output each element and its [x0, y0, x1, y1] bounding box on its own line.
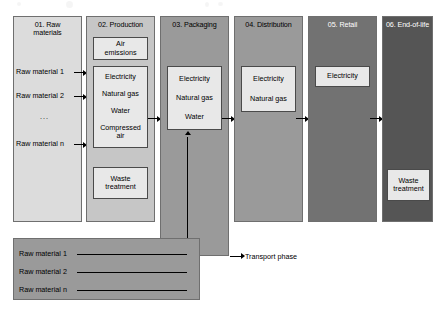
box-production-inputs[interactable]: Electricity Natural gas Water Compressed…: [93, 66, 148, 148]
transport-row-label-n: Raw material n: [19, 286, 67, 294]
arrow-right-icon: [230, 256, 241, 257]
box-air-emissions[interactable]: Air emissions: [93, 37, 148, 60]
transport-row-label-2: Raw material 2: [19, 268, 67, 276]
stage-05-retail[interactable]: 05. Retail: [308, 16, 377, 222]
box-line: Natural gas: [102, 90, 139, 98]
stage-title: 06. End-of-life: [383, 21, 432, 29]
stage-03-packaging[interactable]: 03. Packaging: [160, 16, 229, 256]
transport-line-n: [77, 290, 187, 291]
box-distribution-inputs[interactable]: Electricity Natural gas: [241, 66, 296, 112]
legend-label: Transport phase: [245, 252, 297, 261]
stage-04-distribution[interactable]: 04. Distribution: [234, 16, 303, 222]
scan-artifact: [66, 1, 73, 8]
box-line: Water: [111, 107, 130, 115]
box-line: Electricity: [105, 73, 136, 81]
box-line: Electricity: [327, 72, 358, 80]
legend: Transport phase: [230, 252, 297, 261]
box-waste-treatment-eol[interactable]: Waste treatment: [387, 169, 430, 201]
box-waste-treatment-production[interactable]: Waste treatment: [93, 167, 148, 199]
raw-material-ellipsis: ...: [40, 112, 49, 121]
box-line: Air emissions: [105, 40, 137, 56]
stage-title: 04. Distribution: [235, 21, 302, 29]
connector-raw1-production: [74, 72, 83, 73]
transport-row-label-1: Raw material 1: [19, 250, 67, 258]
box-line: Waste treatment: [105, 175, 135, 191]
stage-title: 03. Packaging: [161, 21, 228, 29]
box-line: Electricity: [253, 75, 284, 83]
stage-title: 01. Raw materials: [14, 21, 81, 38]
arrow-up-icon: [185, 131, 191, 135]
box-line: Compressed air: [100, 124, 141, 140]
raw-material-label-1: Raw material 1: [16, 68, 64, 76]
box-line: Waste treatment: [393, 177, 423, 193]
box-line: Electricity: [179, 75, 210, 83]
connector-raw2-production: [74, 96, 83, 97]
raw-material-label-2: Raw material 2: [16, 92, 64, 100]
diagram-canvas: 01. Raw materials Raw material 1 Raw mat…: [0, 0, 437, 317]
scan-artifact: [218, 2, 223, 6]
transport-line-2: [77, 272, 187, 273]
raw-material-label-n: Raw material n: [16, 140, 64, 148]
transport-line-1: [77, 254, 187, 255]
box-line: Natural gas: [176, 94, 213, 102]
box-line: Natural gas: [250, 95, 287, 103]
scan-artifact: [205, 2, 209, 7]
connector-rawn-production: [74, 144, 83, 145]
stage-title: 02. Production: [87, 21, 154, 29]
scan-artifact: [17, 2, 21, 6]
box-retail-inputs[interactable]: Electricity: [315, 66, 370, 87]
box-packaging-inputs[interactable]: Electricity Natural gas Water: [167, 66, 222, 130]
box-line: Water: [185, 113, 204, 121]
stage-title: 05. Retail: [309, 21, 376, 29]
